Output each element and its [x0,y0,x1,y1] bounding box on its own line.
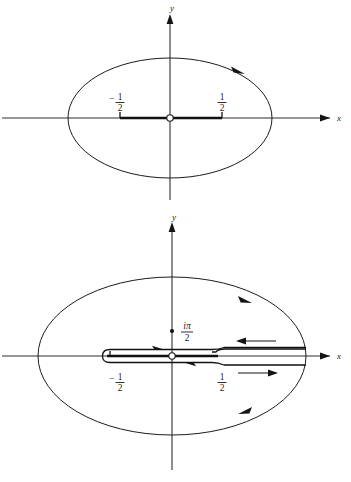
bottom-label-half: 1 2 [218,372,227,393]
bottom-panel: iπ 2 y x − 1 2 1 2 [2,212,341,470]
top-y-axis [167,14,174,200]
bottom-label-right-denominator: 2 [220,383,225,393]
top-y-axis-arrowhead [167,14,174,24]
bottom-y-axis-label: y [171,212,176,222]
bottom-label-minus-sign: − [109,374,114,384]
bottom-label-right-numerator: 1 [220,372,225,382]
keyhole-upper-channel [212,349,306,352]
top-panel: y x − 1 2 1 2 [2,3,341,200]
bottom-y-axis [169,222,176,470]
top-label-half: 1 2 [218,92,227,113]
bottom-pole-label: iπ 2 [181,321,193,343]
top-label-right-numerator: 1 [220,92,225,102]
figure-root: y x − 1 2 1 2 [0,0,351,482]
bottom-pole-marker-dot [170,329,174,333]
bottom-x-axis-label: x [336,351,341,361]
contour-diagram-svg: y x − 1 2 1 2 [0,0,351,482]
channel-upper-arrow [236,337,276,344]
top-x-axis-label: x [336,113,341,123]
channel-lower-arrow [238,369,278,376]
keyhole-lower-channel [212,363,306,366]
top-ellipse-direction-arrow [231,67,245,75]
bottom-ellipse-direction-arrow-lower [238,407,252,414]
bottom-label-left-denominator: 2 [118,383,123,393]
bottom-origin-marker [169,353,175,359]
top-x-axis-arrowhead [320,114,330,121]
bottom-label-left-numerator: 1 [118,372,123,382]
top-label-left-denominator: 2 [118,103,123,113]
top-label-right-denominator: 2 [220,103,225,113]
top-y-axis-label: y [169,3,174,13]
bottom-ellipse-direction-arrow-upper [238,296,252,303]
bottom-y-axis-arrowhead [169,222,176,232]
top-label-left-numerator: 1 [118,92,123,102]
bottom-x-axis-arrowhead [320,352,330,359]
bottom-pole-label-numerator: iπ [183,321,191,331]
top-origin-marker [167,115,173,121]
top-label-minus-half: − 1 2 [109,92,125,113]
bottom-label-minus-half: − 1 2 [109,372,125,393]
bottom-pole-label-denominator: 2 [185,333,190,343]
top-label-minus-sign: − [109,94,114,104]
